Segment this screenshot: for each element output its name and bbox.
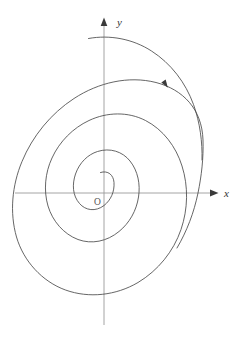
figure-root: x y O (0, 0, 240, 340)
spiral-phase-portrait-svg: x y O (0, 0, 240, 340)
y-axis-label: y (116, 16, 122, 28)
x-axis-label: x (223, 187, 229, 199)
x-axis-arrowhead (210, 190, 219, 197)
origin-label: O (94, 197, 101, 207)
y-axis-arrowhead (101, 18, 108, 27)
spiral-trajectory-curve (13, 80, 204, 295)
spiral-outer-terminal-arc (89, 37, 203, 160)
